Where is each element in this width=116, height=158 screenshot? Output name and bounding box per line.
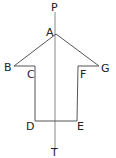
label-f: F xyxy=(80,68,86,81)
label-t: T xyxy=(50,146,58,158)
label-a: A xyxy=(46,26,54,39)
label-b: B xyxy=(4,61,12,74)
label-p: P xyxy=(51,1,58,14)
label-d: D xyxy=(26,120,34,133)
arrow-diagram: P A B C D E F G T xyxy=(0,0,116,158)
label-e: E xyxy=(77,120,84,133)
label-c: C xyxy=(27,68,35,81)
label-g: G xyxy=(101,62,110,75)
